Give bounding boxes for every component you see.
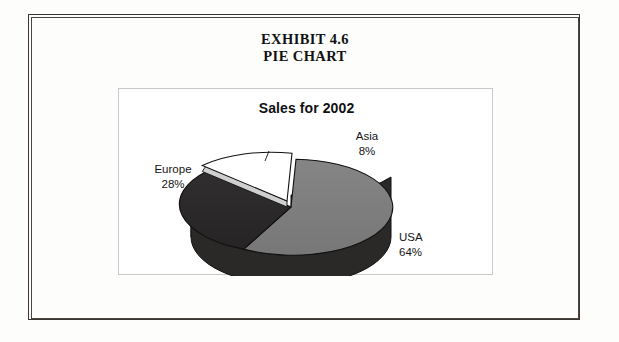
slice-label-usa-name: USA [399, 230, 471, 245]
chart-container: Sales for 2002 [118, 88, 493, 275]
slice-label-europe-name: Europe [131, 162, 215, 177]
slice-label-usa: USA 64% [399, 230, 471, 260]
slice-label-europe: Europe 28% [131, 162, 215, 192]
slice-label-asia-name: Asia [331, 129, 403, 144]
exhibit-heading: EXHIBIT 4.6 PIE CHART [31, 31, 579, 64]
slice-label-asia-percent: 8% [331, 144, 403, 159]
slice-label-asia: Asia 8% [331, 129, 403, 159]
exhibit-number: EXHIBIT 4.6 [31, 31, 579, 48]
exhibit-subtitle: PIE CHART [31, 48, 579, 65]
slice-label-europe-percent: 28% [131, 177, 215, 192]
scanned-page: EXHIBIT 4.6 PIE CHART Sales for 2002 [0, 0, 619, 342]
slice-label-usa-percent: 64% [399, 245, 471, 260]
